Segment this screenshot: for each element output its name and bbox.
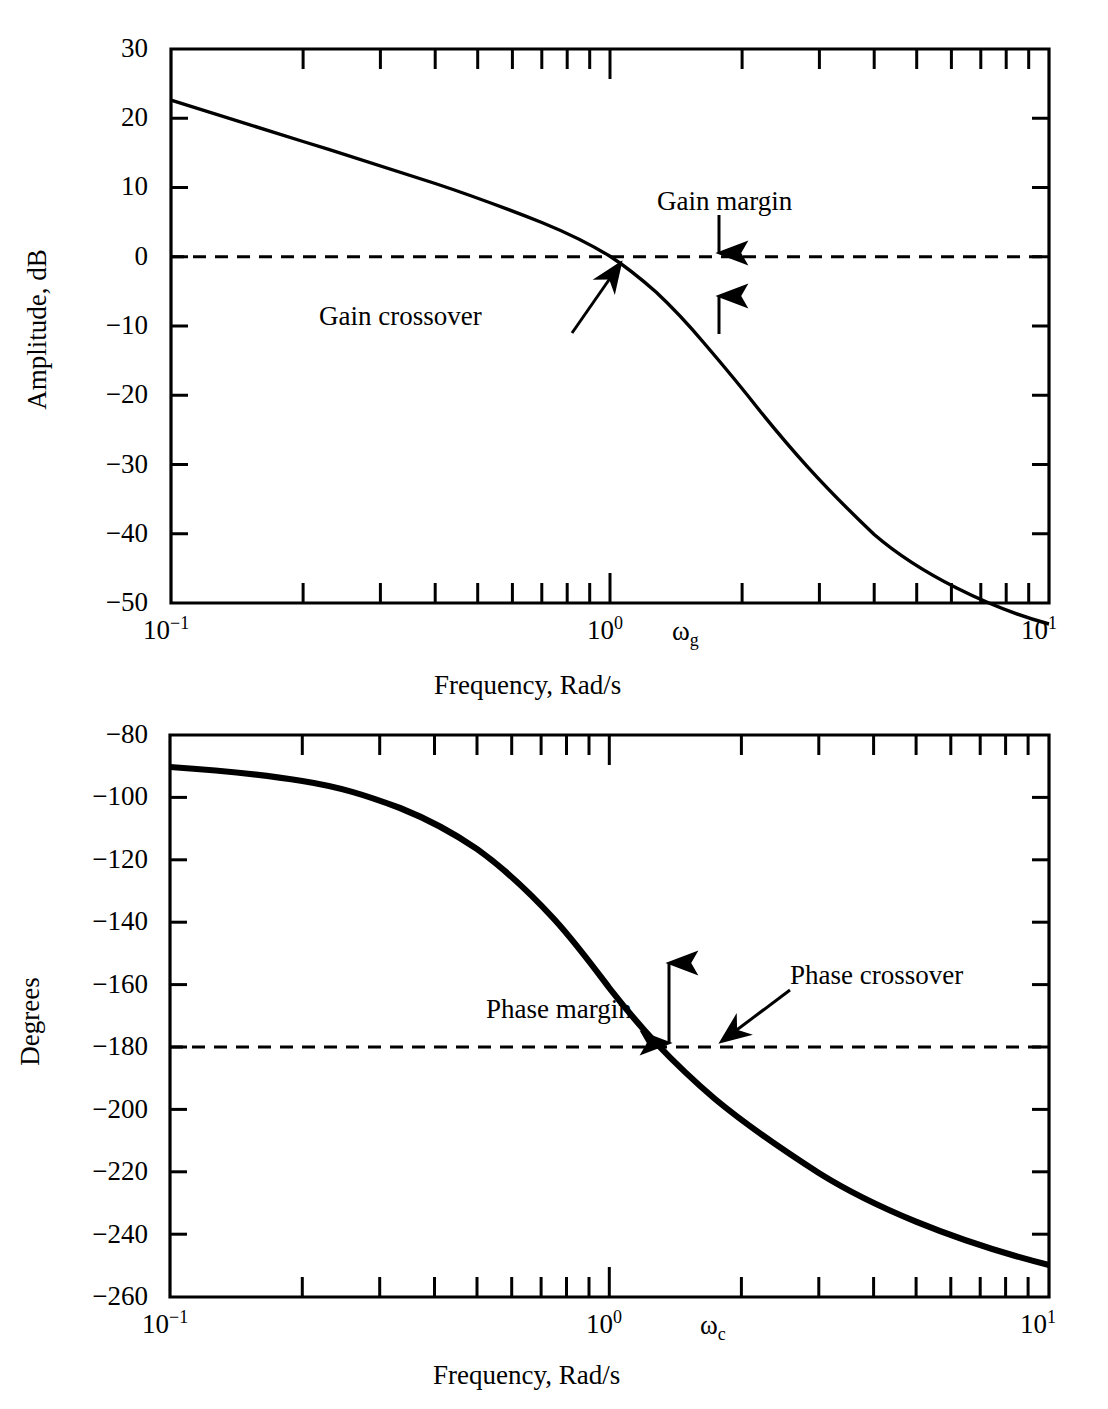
magnitude-ytick-10: 10 — [86, 173, 148, 200]
magnitude-ytick-minus10: −10 — [70, 312, 148, 339]
magnitude-xtick-10-base: 10 — [1021, 615, 1048, 645]
phase-xtick-1: 100 — [586, 1308, 622, 1338]
magnitude-xtick-0.1-exp: −1 — [170, 613, 189, 633]
magnitude-y-ticks-right — [1032, 118, 1049, 534]
magnitude-curve — [171, 100, 1049, 624]
magnitude-xtick-1-exp: 0 — [614, 613, 623, 633]
magnitude-xtick-10-exp: 1 — [1048, 613, 1057, 633]
gain-crossover-pointer — [572, 264, 620, 333]
magnitude-xtick-10: 101 — [1021, 614, 1057, 644]
phase-ytick-minus120: −120 — [50, 846, 148, 873]
bode-plot-canvas — [0, 0, 1108, 1409]
magnitude-ytick-minus50: −50 — [70, 589, 148, 616]
omega-c-label: ωc — [700, 1312, 726, 1343]
phase-xtick-10-exp: 1 — [1047, 1307, 1056, 1327]
phase-xtick-10: 101 — [1020, 1308, 1056, 1338]
magnitude-xtick-1: 100 — [587, 614, 623, 644]
phase-xtick-0.1-exp: −1 — [169, 1307, 188, 1327]
magnitude-ytick-30: 30 — [86, 35, 148, 62]
phase-y-ticks-right — [1032, 797, 1049, 1234]
phase-ytick-minus80: −80 — [70, 721, 148, 748]
magnitude-xaxis-title: Frequency, Rad/s — [434, 672, 621, 699]
magnitude-ytick-0: 0 — [86, 243, 148, 270]
phase-x-ticks — [302, 1267, 1028, 1297]
magnitude-xtick-0.1-base: 10 — [143, 615, 170, 645]
omega-g-sub: g — [690, 630, 699, 650]
magnitude-x-ticks-top — [303, 49, 1029, 79]
gain-crossover-annotation: Gain crossover — [319, 303, 482, 330]
phase-ytick-minus160: −160 — [50, 971, 148, 998]
phase-xtick-1-exp: 0 — [613, 1307, 622, 1327]
magnitude-yaxis-title: Amplitude, dB — [24, 240, 51, 420]
phase-ytick-minus140: −140 — [50, 908, 148, 935]
phase-y-ticks — [170, 797, 187, 1234]
magnitude-xtick-1-base: 10 — [587, 615, 614, 645]
magnitude-axes-frame — [171, 49, 1049, 603]
magnitude-y-ticks — [171, 118, 188, 534]
magnitude-xtick-0.1: 10−1 — [143, 614, 189, 644]
magnitude-ytick-minus20: −20 — [70, 381, 148, 408]
phase-xaxis-title: Frequency, Rad/s — [433, 1362, 620, 1389]
phase-margin-annotation: Phase margin — [486, 996, 632, 1023]
phase-xtick-0.1-base: 10 — [142, 1309, 169, 1339]
gain-margin-annotation: Gain margin — [657, 188, 792, 215]
phase-ytick-minus180: −180 — [50, 1033, 148, 1060]
phase-ytick-minus260: −260 — [50, 1283, 148, 1310]
magnitude-ytick-minus30: −30 — [70, 451, 148, 478]
omega-c-sub: c — [718, 1324, 726, 1344]
omega-g-label: ωg — [672, 618, 699, 649]
phase-xtick-0.1: 10−1 — [142, 1308, 188, 1338]
phase-crossover-pointer — [722, 990, 790, 1041]
phase-ytick-minus240: −240 — [50, 1221, 148, 1248]
phase-ytick-minus200: −200 — [50, 1096, 148, 1123]
phase-ytick-minus220: −220 — [50, 1158, 148, 1185]
phase-ytick-minus100: −100 — [50, 783, 148, 810]
magnitude-ytick-minus40: −40 — [70, 520, 148, 547]
omega-c-base: ω — [700, 1310, 718, 1340]
magnitude-x-ticks — [303, 573, 1029, 603]
phase-xtick-1-base: 10 — [586, 1309, 613, 1339]
phase-crossover-annotation: Phase crossover — [790, 962, 963, 989]
phase-xtick-10-base: 10 — [1020, 1309, 1047, 1339]
phase-yaxis-title: Degrees — [17, 952, 44, 1092]
bode-plot-figure: 30 20 10 0 −10 −20 −30 −40 −50 Amplitude… — [0, 0, 1108, 1409]
phase-x-ticks-top — [302, 735, 1028, 765]
omega-g-base: ω — [672, 616, 690, 646]
magnitude-ytick-20: 20 — [86, 104, 148, 131]
